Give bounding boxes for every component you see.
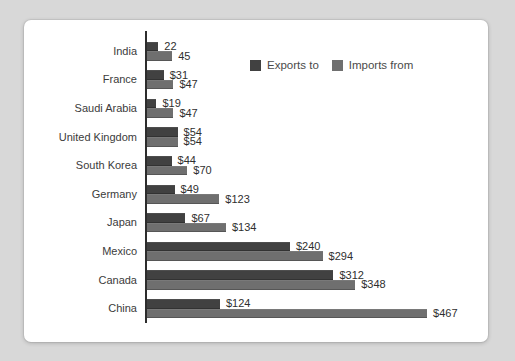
category-label: Japan: [24, 217, 145, 228]
y-axis-line: [145, 31, 147, 323]
chart-row: Saudi Arabia$19$47: [24, 94, 488, 123]
exports-bar: [145, 156, 172, 166]
chart-row: Germany$49$123: [24, 180, 488, 209]
exports-bar: [145, 42, 158, 52]
imports-bar: [145, 51, 172, 61]
bar-group: $124$467: [145, 299, 488, 318]
chart-legend: Exports to Imports from: [250, 60, 413, 72]
imports-value-label: $123: [225, 194, 249, 205]
bar-group: $49$123: [145, 185, 488, 204]
category-label: India: [24, 46, 145, 57]
chart-row: Japan$67$134: [24, 209, 488, 238]
imports-value-label: $47: [179, 79, 197, 90]
category-label: France: [24, 74, 145, 85]
bar-group: $31$47: [145, 70, 488, 89]
category-label: Mexico: [24, 246, 145, 257]
imports-bar-line: $47: [145, 108, 488, 118]
category-label: Germany: [24, 189, 145, 200]
bar-group: $44$70: [145, 156, 488, 175]
bar-group: $19$47: [145, 99, 488, 118]
imports-bar: [145, 280, 355, 290]
exports-bar: [145, 99, 156, 109]
imports-bar: [145, 223, 226, 233]
legend-label-imports: Imports from: [349, 60, 414, 72]
imports-bar: [145, 194, 219, 204]
bar-group: $312$348: [145, 270, 488, 289]
bar-group: $54$54: [145, 127, 488, 146]
imports-bar-line: $134: [145, 223, 488, 233]
exports-bar: [145, 70, 164, 80]
chart-rows: India2245France$31$47Saudi Arabia$19$47U…: [24, 37, 488, 323]
imports-bar: [145, 309, 427, 319]
imports-bar: [145, 251, 323, 261]
imports-value-label: $467: [433, 308, 457, 319]
exports-swatch-icon: [250, 60, 261, 71]
imports-swatch-icon: [332, 60, 343, 71]
legend-item-exports: Exports to: [250, 60, 319, 72]
exports-bar: [145, 127, 178, 137]
imports-value-label: $348: [361, 279, 385, 290]
imports-value-label: $47: [179, 108, 197, 119]
imports-bar-line: $47: [145, 80, 488, 90]
chart-row: Mexico$240$294: [24, 237, 488, 266]
imports-bar-line: $54: [145, 137, 488, 147]
bar-chart-plot: India2245France$31$47Saudi Arabia$19$47U…: [24, 20, 488, 342]
category-label: United Kingdom: [24, 132, 145, 143]
category-label: South Korea: [24, 160, 145, 171]
category-label: Canada: [24, 275, 145, 286]
imports-bar: [145, 108, 173, 118]
exports-bar: [145, 299, 220, 309]
imports-value-label: $54: [184, 136, 202, 147]
imports-value-label: $294: [329, 251, 353, 262]
chart-row: China$124$467: [24, 294, 488, 323]
exports-bar-line: 22: [145, 42, 488, 52]
imports-bar-line: $70: [145, 166, 488, 176]
chart-row: South Korea$44$70: [24, 151, 488, 180]
imports-bar-line: $123: [145, 194, 488, 204]
chart-row: Canada$312$348: [24, 266, 488, 295]
exports-bar: [145, 213, 185, 223]
category-label: China: [24, 303, 145, 314]
exports-bar-line: $240: [145, 242, 488, 252]
chart-row: United Kingdom$54$54: [24, 123, 488, 152]
imports-value-label: 45: [178, 51, 190, 62]
exports-bar: [145, 270, 333, 280]
exports-bar: [145, 242, 290, 252]
bar-group: $67$134: [145, 213, 488, 232]
exports-bar-line: $67: [145, 213, 488, 223]
bar-group: $240$294: [145, 242, 488, 261]
imports-bar-line: $348: [145, 280, 488, 290]
imports-bar-line: $294: [145, 251, 488, 261]
category-label: Saudi Arabia: [24, 103, 145, 114]
bar-group: 2245: [145, 42, 488, 61]
imports-value-label: $70: [193, 165, 211, 176]
legend-item-imports: Imports from: [332, 60, 414, 72]
imports-value-label: $134: [232, 222, 256, 233]
imports-bar: [145, 137, 178, 147]
exports-bar: [145, 185, 175, 195]
legend-label-exports: Exports to: [267, 60, 319, 72]
imports-bar: [145, 166, 187, 176]
imports-bar-line: $467: [145, 309, 488, 319]
imports-bar: [145, 80, 173, 90]
page-background: India2245France$31$47Saudi Arabia$19$47U…: [0, 0, 515, 361]
exports-bar-line: $312: [145, 270, 488, 280]
chart-card: India2245France$31$47Saudi Arabia$19$47U…: [24, 20, 488, 342]
exports-bar-line: $49: [145, 185, 488, 195]
